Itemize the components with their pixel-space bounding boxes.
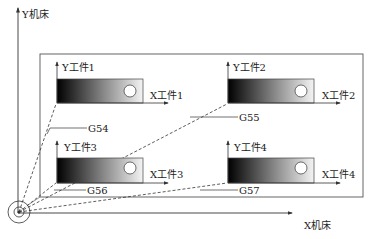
workpiece-2-y-label: Y工件2 [232,62,266,73]
g55-label: G55 [239,112,260,123]
workpiece-2-x-label: X工件2 [322,90,355,101]
workpiece-3: Y工件3 X工件3 G56 [54,141,183,196]
workpiece-1-y-label: Y工件1 [61,62,95,73]
workpiece-4-x-label: X工件4 [322,169,355,180]
hole-icon [124,162,136,174]
hole-icon [124,85,136,97]
workpiece-2: Y工件2 X工件2 G55 [190,62,355,123]
workpiece-1: Y工件1 X工件1 G54 [47,62,183,134]
hole-icon [295,85,307,97]
g56-label: G56 [87,185,108,196]
workpiece-4: Y工件4 X工件4 G57 [200,141,355,196]
workpiece-4-y-label: Y工件4 [233,142,267,153]
work-coordinate-diagram: Y机床 X机床 Y工件1 X工件1 G54 Y工件2 X工件2 G55 [0,0,369,239]
machine-x-label: X机床 [304,219,331,231]
machine-axes: Y机床 X机床 [18,8,331,231]
workpiece-3-y-label: Y工件3 [63,142,97,153]
g54-label: G54 [88,123,109,134]
workpiece-1-x-label: X工件1 [150,90,183,101]
workpiece-3-x-label: X工件3 [150,169,183,180]
g57-label: G57 [239,185,260,196]
machine-y-label: Y机床 [21,8,49,20]
hole-icon [295,162,307,174]
g57-vector [19,183,227,212]
